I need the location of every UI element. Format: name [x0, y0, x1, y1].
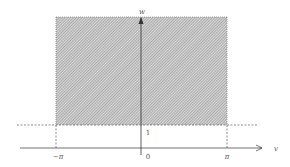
tick-label-pi: π	[224, 153, 230, 161]
horizontal-axis-label: v	[274, 145, 278, 153]
shaded-region	[56, 17, 227, 125]
tick-label-neg-pi: −π	[53, 153, 64, 161]
tick-label-one: 1	[146, 129, 150, 137]
region-diagram: w v −π 0 π 1	[0, 0, 290, 167]
vertical-axis-label: w	[139, 8, 145, 16]
tick-label-zero: 0	[146, 153, 150, 161]
